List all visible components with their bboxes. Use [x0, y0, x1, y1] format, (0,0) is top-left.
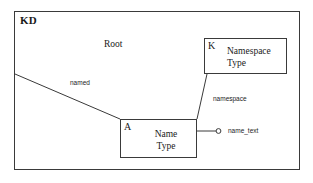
edge-label-namespace: namespace — [213, 95, 247, 102]
entity-namespace-type-tag: K — [208, 40, 215, 51]
entity-namespace-type-label: Namespace Type — [227, 45, 271, 69]
entity-name-type-line2: Type — [143, 140, 189, 152]
entity-name-type[interactable]: A Name Type — [120, 119, 197, 158]
entity-namespace-type[interactable]: K Namespace Type — [204, 38, 287, 74]
attribute-circle-icon — [216, 129, 221, 134]
entity-namespace-type-line1: Namespace — [227, 45, 271, 57]
entity-name-type-line1: Name — [143, 128, 189, 140]
diagram-canvas: KD Root K Namespace Type A Name Type nam… — [0, 0, 313, 183]
entity-namespace-type-line2: Type — [227, 57, 271, 69]
entity-name-type-label: Name Type — [143, 128, 189, 152]
edge-named-line — [15, 74, 120, 119]
edge-namespace-line — [197, 74, 207, 119]
edge-label-named: named — [70, 79, 90, 86]
entity-name-type-tag: A — [124, 121, 131, 132]
edge-label-name-text: name_text — [228, 127, 258, 134]
